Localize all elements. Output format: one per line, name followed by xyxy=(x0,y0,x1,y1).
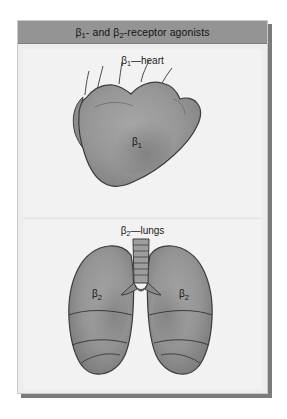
figure-title-bar: β1- and β2-receptor agonists xyxy=(18,21,267,44)
lungs-panel: β2—lungs xyxy=(23,219,262,389)
lungs-illustration: β2 β2 xyxy=(23,219,262,389)
figure-card: β1- and β2-receptor agonists β1—heart xyxy=(17,20,268,394)
figure-title: β1- and β2-receptor agonists xyxy=(75,26,209,38)
figure-container: β1- and β2-receptor agonists β1—heart xyxy=(0,0,287,419)
trachea xyxy=(133,239,149,283)
carina xyxy=(135,285,147,291)
heart-panel: β1—heart xyxy=(23,49,262,217)
heart-illustration: β1 xyxy=(23,49,262,217)
